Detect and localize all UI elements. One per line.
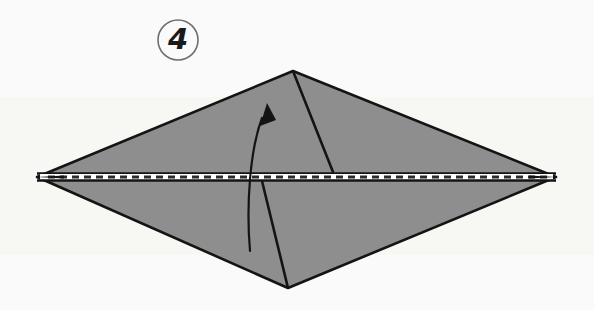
step-number-label: 4	[167, 22, 188, 56]
origami-step-figure: 4 Origami f	[0, 0, 594, 310]
origami-diagram-canvas: 4	[0, 0, 594, 310]
fold-line-group	[37, 174, 556, 181]
